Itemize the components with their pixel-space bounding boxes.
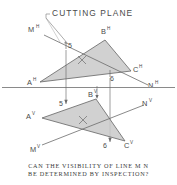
projector-b-arrowhead — [95, 95, 98, 99]
horizontal-view: A H B H C H M H N H 5 6 — [27, 24, 158, 90]
pierce-5-label-front: 5 — [59, 100, 63, 107]
label-b-top-superscript: H — [107, 26, 110, 31]
projector-6-arrowhead — [108, 138, 111, 142]
label-b-front-superscript: V — [94, 89, 98, 94]
descriptive-geometry-figure: CUTTING PLANE A H B H C H — [0, 0, 177, 185]
title-group: CUTTING PLANE — [46, 8, 133, 44]
pierce-6-label-top: 6 — [110, 75, 114, 82]
label-n-top-text: N — [148, 81, 153, 90]
pierce-5-label-top: 5 — [68, 42, 72, 49]
label-a-top-superscript: H — [33, 77, 36, 82]
caption-line-1: CAN THE VISIBILITY OF LINE M N — [0, 162, 177, 170]
label-c-top-superscript: H — [139, 64, 142, 69]
label-b-top: B H — [101, 26, 110, 36]
triangle-abc-top — [40, 40, 131, 82]
label-n-top: N H — [148, 80, 158, 90]
frontal-view: A V B V C V M V N V 5 6 — [26, 89, 153, 154]
label-m-front: M V — [30, 144, 41, 154]
label-m-top-text: M — [28, 25, 34, 34]
title-leader-line — [46, 18, 68, 44]
label-m-front-superscript: V — [37, 144, 41, 149]
label-c-front-superscript: V — [130, 140, 134, 145]
label-a-front-text: A — [26, 112, 31, 121]
label-c-top: C H — [133, 64, 142, 74]
label-n-front-superscript: V — [149, 98, 153, 103]
label-a-top-text: A — [27, 78, 32, 87]
label-m-top-superscript: H — [36, 24, 39, 29]
label-a-top: A H — [27, 77, 36, 87]
title-leader-bracket — [46, 14, 50, 18]
title-leader-line-2 — [46, 18, 60, 42]
label-n-front: N V — [142, 98, 153, 108]
label-b-top-text: B — [101, 27, 106, 36]
figure-title: CUTTING PLANE — [52, 8, 133, 18]
label-a-front: A V — [26, 111, 36, 121]
projector-5-arrowhead — [64, 100, 67, 104]
label-n-front-text: N — [142, 99, 147, 108]
label-a-front-superscript: V — [32, 111, 36, 116]
figure-caption: CAN THE VISIBILITY OF LINE M N BE DETERM… — [0, 162, 177, 178]
pierce-6-label-front: 6 — [103, 142, 107, 149]
label-n-top-superscript: H — [155, 80, 158, 85]
label-b-front-text: B — [88, 90, 93, 99]
label-c-front: C V — [124, 140, 134, 150]
triangle-abc-front — [42, 99, 125, 141]
caption-line-2: BE DETERMINED BY INSPECTION? — [0, 170, 177, 178]
label-m-front-text: M — [30, 145, 36, 154]
label-m-top: M H — [28, 24, 39, 34]
